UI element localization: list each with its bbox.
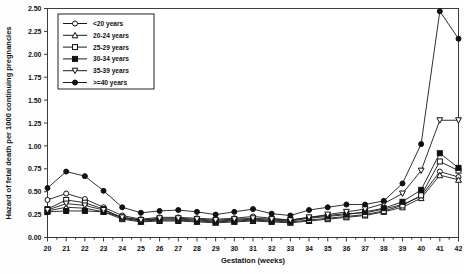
legend-label: <20 years bbox=[93, 20, 124, 28]
x-axis-label: Gestation (weeks) bbox=[221, 256, 286, 265]
series-marker bbox=[437, 9, 442, 14]
y-tick-label: 2.25 bbox=[28, 28, 42, 35]
series-marker bbox=[64, 191, 69, 196]
series-marker bbox=[419, 187, 424, 192]
x-tick-label: 28 bbox=[193, 245, 201, 252]
series-marker bbox=[82, 174, 87, 179]
series-marker bbox=[232, 209, 237, 214]
x-tick-label: 34 bbox=[305, 245, 313, 252]
x-tick-label: 37 bbox=[361, 245, 369, 252]
legend-marker bbox=[73, 45, 78, 50]
series-marker bbox=[381, 198, 386, 203]
x-tick-label: 36 bbox=[343, 245, 351, 252]
series-marker bbox=[456, 36, 461, 41]
legend: <20 years20-24 years25-29 years30-34 yea… bbox=[58, 14, 154, 89]
series-marker bbox=[45, 197, 50, 202]
series-marker bbox=[251, 207, 256, 212]
chart-figure: 0.000.250.500.751.001.251.501.752.002.25… bbox=[0, 0, 464, 274]
legend-marker bbox=[73, 80, 78, 85]
x-tick-label: 41 bbox=[436, 245, 444, 252]
y-tick-label: 0.75 bbox=[28, 165, 42, 172]
series-marker bbox=[344, 202, 349, 207]
y-tick-label: 0.00 bbox=[28, 234, 42, 241]
x-tick-label: 23 bbox=[100, 245, 108, 252]
x-tick-label: 32 bbox=[268, 245, 276, 252]
x-tick-label: 27 bbox=[174, 245, 182, 252]
legend-label: >=40 years bbox=[93, 79, 127, 87]
x-tick-label: 42 bbox=[455, 245, 463, 252]
x-tick-label: 38 bbox=[380, 245, 388, 252]
series-marker bbox=[400, 181, 405, 186]
series-marker bbox=[213, 212, 218, 217]
series-marker bbox=[101, 188, 106, 193]
legend-label: 30-34 years bbox=[93, 55, 129, 63]
y-axis-label: Hazard of fetal death per 1000 continuin… bbox=[4, 27, 13, 220]
x-tick-label: 40 bbox=[417, 245, 425, 252]
y-tick-label: 0.25 bbox=[28, 211, 42, 218]
series-marker bbox=[64, 208, 69, 213]
series-marker bbox=[176, 208, 181, 213]
series-marker bbox=[194, 209, 199, 214]
y-tick-label: 1.75 bbox=[28, 74, 42, 81]
series-marker bbox=[400, 199, 405, 204]
series-marker bbox=[64, 169, 69, 174]
legend-label: 25-29 years bbox=[93, 44, 129, 52]
y-tick-label: 0.50 bbox=[28, 188, 42, 195]
x-tick-label: 35 bbox=[324, 245, 332, 252]
x-tick-label: 25 bbox=[137, 245, 145, 252]
y-tick-label: 2.00 bbox=[28, 51, 42, 58]
series-marker bbox=[120, 205, 125, 210]
series-marker bbox=[419, 193, 424, 198]
x-tick-label: 22 bbox=[81, 245, 89, 252]
y-tick-label: 1.00 bbox=[28, 143, 42, 150]
series-marker bbox=[456, 165, 461, 170]
legend-marker bbox=[73, 21, 78, 26]
series-marker bbox=[45, 186, 50, 191]
x-tick-label: 39 bbox=[399, 245, 407, 252]
series-marker bbox=[363, 202, 368, 207]
legend-label: 35-39 years bbox=[93, 67, 129, 75]
y-tick-label: 2.50 bbox=[28, 5, 42, 12]
legend-label: 20-24 years bbox=[93, 32, 129, 40]
y-axis: 0.000.250.500.751.001.251.501.752.002.25… bbox=[28, 5, 48, 241]
x-tick-label: 21 bbox=[62, 245, 70, 252]
series-marker bbox=[325, 205, 330, 210]
y-tick-label: 1.25 bbox=[28, 120, 42, 127]
x-tick-label: 29 bbox=[212, 245, 220, 252]
x-tick-label: 33 bbox=[286, 245, 294, 252]
x-tick-label: 24 bbox=[118, 245, 126, 252]
x-tick-label: 20 bbox=[44, 245, 52, 252]
x-tick-label: 31 bbox=[249, 245, 257, 252]
x-tick-label: 30 bbox=[230, 245, 238, 252]
legend-marker bbox=[73, 56, 78, 61]
series-marker bbox=[288, 213, 293, 218]
x-tick-label: 26 bbox=[156, 245, 164, 252]
series-marker bbox=[157, 208, 162, 213]
series-marker bbox=[269, 211, 274, 216]
series-marker bbox=[437, 151, 442, 156]
series-marker bbox=[138, 210, 143, 215]
series-marker bbox=[437, 159, 442, 164]
y-tick-label: 1.50 bbox=[28, 97, 42, 104]
chart-canvas: 0.000.250.500.751.001.251.501.752.002.25… bbox=[0, 0, 464, 274]
series-marker bbox=[307, 208, 312, 213]
series-marker bbox=[419, 142, 424, 147]
x-axis: 2021222324252627282930313233343536373839… bbox=[44, 238, 463, 252]
